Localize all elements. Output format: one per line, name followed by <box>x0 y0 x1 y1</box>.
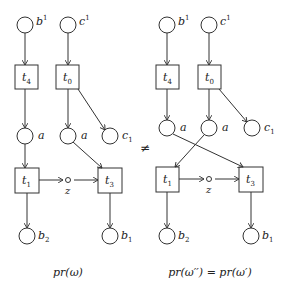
svg-text:b1: b1 <box>178 14 190 28</box>
svg-text:c1: c1 <box>79 14 90 28</box>
svg-text:t1: t1 <box>163 173 172 188</box>
svg-text:t3: t3 <box>105 174 114 189</box>
place-a-right <box>60 128 76 144</box>
place-b-sub1 <box>243 228 259 244</box>
svg-text:t0: t0 <box>63 71 72 86</box>
arc-t0-c1 <box>78 89 105 130</box>
svg-text:a: a <box>222 121 229 134</box>
place-c-sup1 <box>201 17 217 33</box>
svg-text:z: z <box>64 185 71 196</box>
svg-text:b1: b1 <box>262 229 274 244</box>
place-b-sub1 <box>102 228 118 244</box>
svg-text:z: z <box>205 184 212 195</box>
svg-text:c1: c1 <box>220 14 231 28</box>
place-a-right <box>201 120 217 136</box>
place-z <box>66 178 71 183</box>
svg-text:t0: t0 <box>205 71 214 86</box>
svg-text:b1: b1 <box>121 229 133 244</box>
svg-text:a: a <box>180 121 187 134</box>
place-z <box>207 177 212 182</box>
arc-a-right-t1 <box>175 135 204 167</box>
left-caption: pr(ω) <box>53 266 83 279</box>
diagram-svg: b1 c1 t4 t0 a a c1 t1 t3 z b2 b1 pr(ω) ≠ <box>0 0 292 290</box>
svg-text:b2: b2 <box>178 229 190 244</box>
place-a-left <box>159 120 175 136</box>
place-a-left <box>17 128 33 144</box>
svg-text:b2: b2 <box>38 229 50 244</box>
place-c-sub1 <box>102 128 118 144</box>
arc-a-left-t3 <box>173 134 243 167</box>
place-c-sub1 <box>244 120 260 136</box>
place-b-sup1 <box>17 17 33 33</box>
svg-text:t3: t3 <box>246 173 255 188</box>
svg-text:t4: t4 <box>163 71 172 86</box>
not-equal-sign: ≠ <box>140 141 150 155</box>
place-b-sub2 <box>19 228 35 244</box>
svg-text:b1: b1 <box>36 14 48 28</box>
petri-net-comparison: b1 c1 t4 t0 a a c1 t1 t3 z b2 b1 pr(ω) ≠ <box>0 0 292 290</box>
arc-a-t3 <box>73 142 102 168</box>
place-c-sup1 <box>60 17 76 33</box>
left-net <box>15 17 122 244</box>
svg-text:t1: t1 <box>22 174 31 189</box>
svg-text:a: a <box>38 129 45 142</box>
svg-text:c1: c1 <box>122 129 133 144</box>
svg-text:a: a <box>81 129 88 142</box>
right-caption: pr(ω′′) = pr(ω′) <box>168 266 251 279</box>
place-b-sup1 <box>159 17 175 33</box>
arc-t0-c1 <box>219 89 247 122</box>
svg-text:c1: c1 <box>264 121 275 136</box>
right-net <box>156 17 263 244</box>
svg-text:t4: t4 <box>22 71 31 86</box>
place-b-sub2 <box>159 228 175 244</box>
